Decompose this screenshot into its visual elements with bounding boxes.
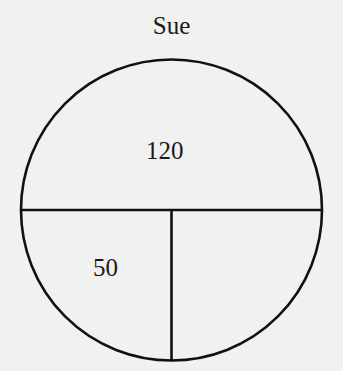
circle-divided-diagram xyxy=(0,0,343,371)
section-label-top: 120 xyxy=(146,137,184,165)
pie-diagram: Sue 120 50 xyxy=(0,0,343,371)
section-label-bottom-left: 50 xyxy=(93,254,118,282)
